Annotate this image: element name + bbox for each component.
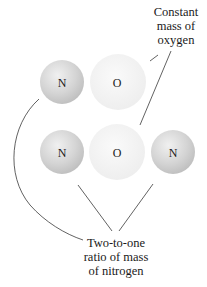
caption-line: Two-to-one bbox=[72, 236, 160, 250]
caption-line: oxygen bbox=[148, 33, 204, 47]
caption-line: ratio of mass bbox=[72, 250, 160, 264]
atom-label: O bbox=[113, 146, 122, 160]
atom-label: N bbox=[58, 146, 67, 160]
oxygen-caption: Constant mass of oxygen bbox=[148, 5, 204, 47]
caption-line: mass of bbox=[148, 19, 204, 33]
leader-line bbox=[119, 184, 153, 231]
atom-label: O bbox=[113, 76, 122, 90]
leader-line bbox=[150, 55, 158, 61]
atom-label: N bbox=[58, 76, 67, 90]
nitrogen-caption: Two-to-one ratio of mass of nitrogen bbox=[72, 236, 160, 278]
molecule-n2o: N O N bbox=[40, 124, 195, 180]
caption-line: of nitrogen bbox=[72, 264, 160, 278]
leader-line bbox=[78, 185, 112, 231]
caption-line: Constant bbox=[148, 5, 204, 19]
atom-label: N bbox=[169, 146, 178, 160]
molecule-no: N O bbox=[40, 54, 146, 110]
